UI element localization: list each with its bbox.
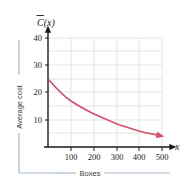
x-axis-title-text: x: [174, 141, 180, 152]
y-axis-title: C(x): [37, 16, 56, 30]
y-axis-title-text: C(x): [37, 17, 55, 29]
y-tick-label-40: 40: [34, 33, 43, 43]
x-tick-label-500: 500: [156, 152, 169, 162]
y-tick-label-30: 30: [34, 60, 43, 70]
grid-vertical: [71, 38, 162, 147]
x-tick-label-200: 200: [88, 152, 101, 162]
average-cost-curve: [49, 80, 157, 135]
y-tick-label-20: 20: [34, 87, 43, 97]
average-cost-chart: 40 30 20 10 100 200 300 400 500 C(x) x A…: [0, 0, 192, 190]
y-tick-label-10: 10: [34, 115, 43, 125]
x-tick-label-300: 300: [111, 152, 124, 162]
y-bracket-label: Average cost: [15, 84, 24, 129]
figure-container: 40 30 20 10 100 200 300 400 500 C(x) x A…: [0, 0, 192, 190]
x-tick-label-100: 100: [65, 152, 78, 162]
x-tick-label-400: 400: [133, 152, 146, 162]
x-bracket-label: Boxes: [80, 169, 101, 178]
